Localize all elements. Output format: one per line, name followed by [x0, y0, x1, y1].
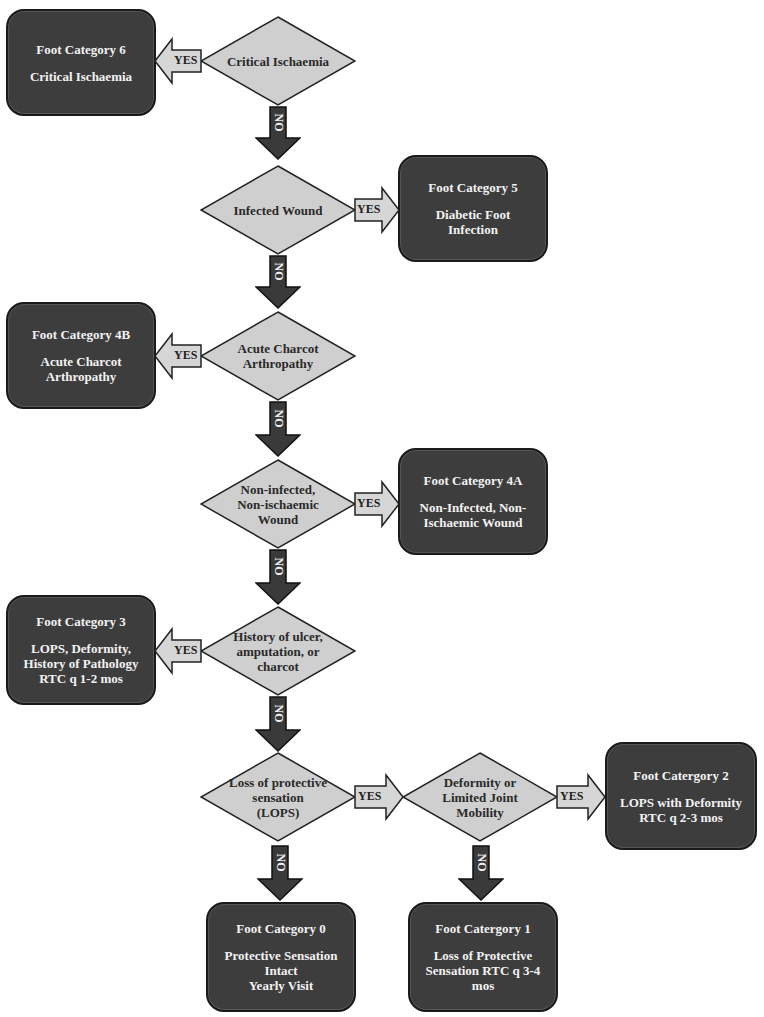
category-desc: Diabetic Foot Infection [436, 207, 511, 237]
category-4b-box: Foot Category 4B Acute Charcot Arthropat… [6, 302, 156, 409]
category-0-box: Foot Category 0 Protective Sensation Int… [206, 902, 356, 1012]
category-desc: LOPS with Deformity RTC q 2-3 mos [620, 795, 742, 825]
no-label: NO [474, 854, 489, 872]
category-1-box: Foot Catergory 1 Loss of Protective Sens… [408, 902, 558, 1012]
category-5-box: Foot Category 5 Diabetic Foot Infection [398, 155, 548, 262]
yes-label: YES [174, 53, 197, 68]
decision-infected-wound: Infected Wound [200, 165, 356, 255]
decision-deformity: Deformity or Limited Joint Mobility [402, 752, 558, 842]
yes-arrow-right-3: YES [354, 772, 404, 822]
no-arrow-down-7: NO [458, 845, 504, 901]
decision-label: Infected Wound [200, 165, 356, 255]
no-arrow-down-6: NO [257, 845, 303, 901]
decision-label: History of ulcer, amputation, or charcot [200, 606, 356, 696]
category-title: Foot Category 3 [36, 614, 126, 629]
no-arrow-down-1: NO [255, 106, 301, 160]
decision-critical-ischaemia: Critical Ischaemia [200, 16, 356, 106]
yes-label: YES [357, 496, 380, 511]
category-title: Foot Catergory 1 [435, 921, 530, 936]
category-desc: Protective Sensation Intact Yearly Visit [225, 948, 338, 993]
decision-lops: Loss of protective sensation (LOPS) [200, 752, 356, 842]
decision-label: Acute Charcot Arthropathy [200, 311, 356, 401]
no-label: NO [271, 558, 286, 576]
yes-arrow-right-1: YES [354, 185, 400, 235]
no-label: NO [271, 263, 286, 281]
yes-arrow-left-3: YES [154, 626, 202, 676]
yes-arrow-left-2: YES [154, 331, 202, 381]
yes-arrow-right-4: YES [556, 772, 606, 822]
yes-label: YES [174, 643, 197, 658]
yes-label: YES [357, 202, 380, 217]
category-2-box: Foot Catergory 2 LOPS with Deformity RTC… [605, 742, 757, 850]
category-title: Foot Category 0 [236, 921, 326, 936]
no-label: NO [271, 705, 286, 723]
no-arrow-down-2: NO [255, 255, 301, 309]
no-arrow-down-5: NO [255, 696, 301, 752]
category-title: Foot Category 4A [424, 473, 523, 488]
yes-label: YES [174, 348, 197, 363]
category-title: Foot Catergory 2 [633, 768, 728, 783]
no-label: NO [273, 854, 288, 872]
yes-arrow-right-2: YES [354, 479, 400, 529]
category-desc: LOPS, Deformity, History of Pathology RT… [24, 641, 139, 686]
category-title: Foot Category 4B [32, 327, 130, 342]
category-4a-box: Foot Category 4A Non-Infected, Non- Isch… [398, 448, 548, 555]
decision-acute-charcot: Acute Charcot Arthropathy [200, 311, 356, 401]
category-desc: Non-Infected, Non- Ischaemic Wound [420, 500, 527, 530]
no-arrow-down-3: NO [255, 401, 301, 457]
decision-history-ulcer: History of ulcer, amputation, or charcot [200, 606, 356, 696]
decision-label: Critical Ischaemia [200, 16, 356, 106]
category-3-box: Foot Category 3 LOPS, Deformity, History… [6, 595, 156, 705]
no-label: NO [271, 410, 286, 428]
no-label: NO [271, 114, 286, 132]
category-6-box: Foot Category 6 Critical Ischaemia [6, 9, 156, 116]
decision-label: Deformity or Limited Joint Mobility [402, 752, 558, 842]
no-arrow-down-4: NO [255, 549, 301, 605]
yes-label: YES [560, 789, 583, 804]
decision-non-infected-wound: Non-infected, Non-ischaemic Wound [200, 459, 356, 549]
category-desc: Critical Ischaemia [30, 69, 132, 84]
decision-label: Non-infected, Non-ischaemic Wound [200, 459, 356, 549]
yes-arrow-left-1: YES [154, 36, 202, 86]
decision-label: Loss of protective sensation (LOPS) [200, 752, 356, 842]
yes-label: YES [358, 789, 381, 804]
category-title: Foot Category 6 [36, 42, 126, 57]
category-desc: Loss of Protective Sensation RTC q 3-4 m… [426, 948, 541, 993]
category-desc: Acute Charcot Arthropathy [41, 354, 122, 384]
category-title: Foot Category 5 [428, 180, 518, 195]
